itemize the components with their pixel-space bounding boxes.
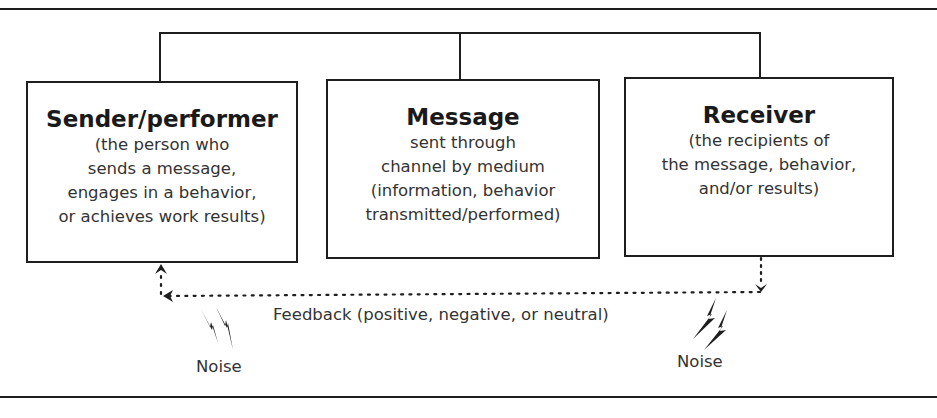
sender-box: Sender/performer (the person who sends a… xyxy=(26,81,298,263)
receiver-box: Receiver (the recipients of the message,… xyxy=(624,77,894,257)
message-box: Message sent through channel by medium (… xyxy=(326,79,600,259)
feedback-label: Feedback (positive, negative, or neutral… xyxy=(273,305,609,324)
noise-label-right: Noise xyxy=(677,352,723,371)
lightning-bolt-icon xyxy=(201,307,233,350)
noise-label-left: Noise xyxy=(196,357,242,376)
sender-description: (the person who sends a message, engages… xyxy=(28,133,296,229)
feedback-path xyxy=(155,258,767,302)
lightning-bolt-icon xyxy=(693,298,727,350)
message-title: Message xyxy=(328,103,598,131)
sender-title: Sender/performer xyxy=(28,105,296,133)
message-description: sent through channel by medium (informat… xyxy=(328,131,598,227)
receiver-title: Receiver xyxy=(626,101,892,129)
receiver-description: (the recipients of the message, behavior… xyxy=(626,129,892,201)
